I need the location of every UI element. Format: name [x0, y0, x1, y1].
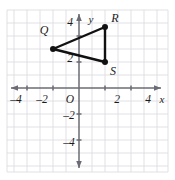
coordinate-plane-svg: x y –4 –2 2 4 4 2 –2 –4 O Q R S [0, 0, 175, 180]
coordinate-plane-figure: x y –4 –2 2 4 4 2 –2 –4 O Q R S [0, 0, 175, 180]
y-axis-label: y [88, 13, 94, 25]
vertex-point-r [102, 24, 108, 30]
x-tick-label-pos2: 2 [114, 93, 120, 105]
x-axis-label: x [159, 93, 165, 105]
vertex-point-s [102, 59, 108, 65]
vertex-label-s: S [110, 64, 116, 78]
y-tick-label-neg4: –4 [62, 136, 75, 148]
y-tick-label-neg2: –2 [62, 109, 75, 121]
x-tick-label-pos4: 4 [145, 93, 151, 105]
vertex-label-q: Q [40, 23, 49, 37]
vertex-label-r: R [110, 11, 119, 25]
vertex-point-q [50, 46, 56, 52]
x-tick-label-neg2: –2 [35, 93, 48, 105]
origin-label: O [66, 93, 75, 105]
y-tick-label-pos4: 4 [67, 16, 73, 28]
x-tick-label-neg4: –4 [9, 93, 22, 105]
